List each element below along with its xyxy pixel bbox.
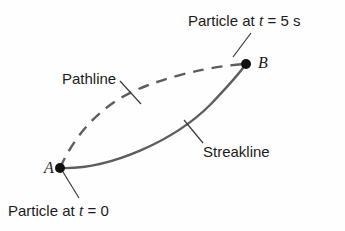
label-particle-at-t5: Particle at t = 5 s — [188, 13, 300, 29]
leader-line-streakline — [184, 120, 203, 143]
label-particle-at-t0: Particle at t = 0 — [8, 203, 109, 219]
label-particle-t0-suffix: = 0 — [83, 202, 108, 219]
leader-line-particle-t5 — [233, 33, 251, 57]
leader-line-pathline — [120, 81, 141, 104]
label-streakline: Streakline — [203, 144, 270, 159]
point-b-marker — [241, 59, 251, 69]
label-particle-t0-prefix: Particle at — [8, 202, 79, 219]
label-particle-t5-prefix: Particle at — [188, 12, 259, 29]
diagram-svg — [0, 0, 345, 231]
figure-canvas: Particle at t = 5 s Particle at t = 0 Pa… — [0, 0, 345, 231]
label-particle-t5-suffix: = 5 s — [263, 12, 300, 29]
label-point-b: B — [258, 55, 268, 71]
label-pathline: Pathline — [62, 71, 116, 86]
leader-line-particle-t0 — [63, 172, 79, 198]
label-point-a: A — [44, 160, 54, 176]
point-a-marker — [55, 163, 65, 173]
